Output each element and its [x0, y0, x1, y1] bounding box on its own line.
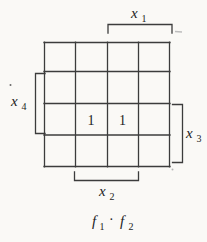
- caption-f2: f: [120, 213, 126, 229]
- cell-value-r3c2: 1: [88, 113, 95, 128]
- bracket-x1: [108, 25, 172, 34]
- label-x1-subscript: 1: [142, 13, 147, 24]
- kmap-figure: x 1 x 4 x 3 x 2 1 1 f 1 · f 2: [0, 0, 207, 242]
- kmap-grid: [44, 42, 170, 167]
- label-x3-subscript: 3: [197, 133, 202, 144]
- label-x2: x: [98, 183, 106, 199]
- caption-f1-subscript: 1: [100, 221, 105, 232]
- caption-f2-subscript: 2: [129, 221, 134, 232]
- faint-dash-top-right: [175, 32, 182, 33]
- caption-f1: f: [92, 213, 98, 229]
- label-x2-subscript: 2: [110, 191, 115, 202]
- label-x4-subscript: 4: [22, 101, 27, 112]
- kmap-cell-values: 1 1: [88, 113, 127, 128]
- bracket-x2: [75, 172, 139, 181]
- label-x3: x: [185, 125, 193, 141]
- cell-value-r3c3: 1: [119, 113, 126, 128]
- kmap-brackets: [36, 25, 183, 181]
- figure-caption: f 1 · f 2: [92, 212, 134, 233]
- faint-dot-bottom-right: [172, 169, 174, 171]
- label-x1: x: [130, 5, 138, 21]
- caption-dot-operator: ·: [109, 212, 114, 227]
- stray-dot-near-x4: [10, 84, 12, 86]
- bracket-x3: [173, 105, 183, 163]
- label-x4: x: [10, 93, 18, 109]
